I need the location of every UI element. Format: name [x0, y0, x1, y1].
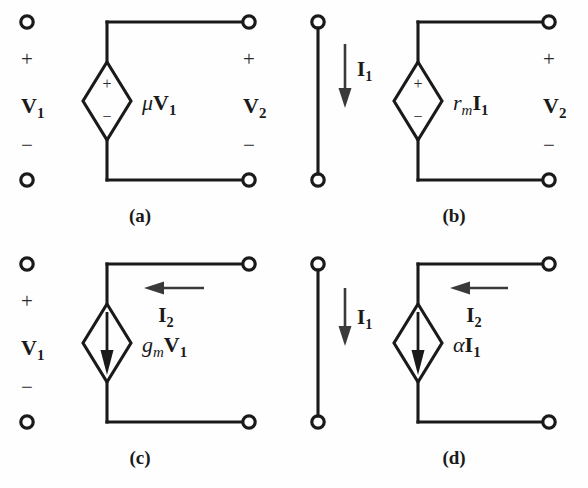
- dependent-voltage-source-diamond: [83, 62, 131, 140]
- input-terminal-top: [312, 16, 324, 28]
- output-current-label: I2: [466, 303, 481, 330]
- source-label: gmV1: [142, 332, 187, 360]
- source-minus-sign: −: [102, 108, 111, 125]
- panel-caption: (d): [442, 447, 465, 469]
- source-label: μV1: [141, 90, 176, 118]
- output-voltage-label: V2: [543, 93, 566, 121]
- input-voltage-label: V1: [21, 93, 44, 121]
- panel-c: + V1 − I2 gmV1 (c): [0, 244, 294, 488]
- output-current-arrow-head: [144, 282, 164, 295]
- panel-a-schematic: + V1 − + − μV1 + V2 − (a): [0, 0, 294, 244]
- output-terminal-bottom: [543, 174, 555, 186]
- panel-b: I1 + − rmI1 + V2 − (b): [294, 0, 588, 244]
- input-plus-sign: +: [21, 289, 33, 313]
- input-terminal-bottom: [21, 416, 33, 428]
- output-voltage-label: V2: [243, 93, 266, 121]
- input-terminal-bottom: [312, 416, 324, 428]
- panel-a: + V1 − + − μV1 + V2 − (a): [0, 0, 294, 244]
- output-plus-sign: +: [243, 47, 255, 71]
- output-terminal-top: [543, 16, 555, 28]
- output-terminal-top: [543, 258, 555, 270]
- panel-b-schematic: I1 + − rmI1 + V2 − (b): [294, 0, 588, 244]
- output-current-arrow-head: [450, 282, 470, 295]
- input-voltage-label: V1: [21, 335, 44, 363]
- input-minus-sign: −: [21, 375, 33, 399]
- source-plus-sign: +: [102, 75, 111, 92]
- output-terminal-bottom: [243, 416, 255, 428]
- input-terminal-top: [21, 16, 33, 28]
- source-minus-sign: −: [413, 108, 422, 125]
- output-minus-sign: −: [243, 133, 255, 157]
- source-label: rmI1: [453, 90, 488, 118]
- output-plus-sign: +: [543, 47, 555, 71]
- input-current-arrow-head: [339, 326, 352, 346]
- source-plus-sign: +: [413, 75, 422, 92]
- panel-caption: (a): [129, 205, 151, 227]
- input-terminal-top: [312, 258, 324, 270]
- input-minus-sign: −: [21, 133, 33, 157]
- source-arrow-head: [101, 350, 114, 375]
- output-minus-sign: −: [543, 133, 555, 157]
- input-terminal-bottom: [312, 174, 324, 186]
- output-terminal-bottom: [543, 416, 555, 428]
- output-terminal-bottom: [243, 174, 255, 186]
- source-label: αI1: [453, 332, 481, 360]
- input-terminal-top: [21, 258, 33, 270]
- dependent-voltage-source-diamond: [394, 62, 442, 140]
- output-current-label: I2: [158, 303, 173, 330]
- input-terminal-bottom: [21, 174, 33, 186]
- input-current-label: I1: [357, 57, 372, 84]
- panel-c-schematic: + V1 − I2 gmV1 (c): [0, 244, 294, 488]
- panel-caption: (b): [442, 205, 465, 227]
- input-current-arrow-head: [339, 88, 352, 108]
- output-terminal-top: [243, 16, 255, 28]
- panel-caption: (c): [129, 447, 150, 469]
- panel-d: I1 I2 αI1 (d): [294, 244, 588, 488]
- source-arrow-head: [412, 350, 425, 375]
- panel-d-schematic: I1 I2 αI1 (d): [294, 244, 588, 488]
- input-plus-sign: +: [21, 47, 33, 71]
- input-current-label: I1: [357, 305, 372, 332]
- output-terminal-top: [243, 258, 255, 270]
- figure-dependent-sources: + V1 − + − μV1 + V2 − (a): [0, 0, 588, 488]
